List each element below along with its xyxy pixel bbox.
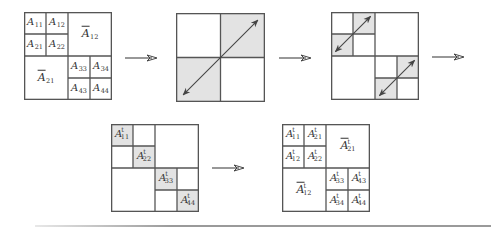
matrix-block-label: At11: [286, 129, 300, 141]
matrix-block-label: A34: [93, 61, 109, 73]
matrix-transpose-diagram: A11A12A21A22A12A21A33A34A43A44At11At22At…: [0, 0, 491, 228]
arrow-step-2-to-3-icon: [279, 53, 312, 63]
step-5-transposed-result: At11At21At12At22At21At12At33At43At34At44: [282, 124, 370, 212]
matrix-block-label: A21: [27, 39, 43, 51]
matrix-block-label: At11: [115, 129, 129, 141]
matrix-block-label: A33: [71, 61, 87, 73]
arrow-step-4-to-5-icon: [212, 163, 245, 173]
arrow-step-1-to-2-icon: [125, 53, 158, 63]
matrix-block-label: A22: [49, 39, 65, 51]
bottom-rule-divider: [35, 225, 491, 227]
arrow-step-3-to-4-icon: [432, 52, 465, 62]
matrix-block-label: A21: [38, 72, 55, 85]
step-3-swap-subblocks: [331, 12, 419, 100]
matrix-block-label: At43: [352, 173, 366, 185]
matrix-block-label: A12: [82, 28, 99, 41]
matrix-block-label: A12: [49, 17, 65, 29]
matrix-block-label: At22: [137, 151, 151, 163]
matrix-block-label: At22: [308, 151, 322, 163]
matrix-block-label: At12: [286, 151, 300, 163]
matrix-block-label: At44: [181, 195, 195, 207]
matrix-block-label: At21: [341, 140, 356, 153]
matrix-block-label: At21: [308, 129, 322, 141]
matrix-block-label: At12: [297, 184, 312, 197]
matrix-block-label: At34: [330, 195, 344, 207]
block-grid: [331, 12, 419, 100]
matrix-block-label: At33: [330, 173, 344, 185]
matrix-block-label: A44: [93, 83, 109, 95]
matrix-block-label: At44: [352, 195, 366, 207]
step-1-original-blocks: A11A12A21A22A12A21A33A34A43A44: [24, 12, 112, 100]
matrix-block-label: At33: [159, 173, 173, 185]
matrix-block-label: A43: [71, 83, 87, 95]
matrix-block-label: A11: [27, 17, 43, 29]
step-2-swap-offdiagonal-blocks: [176, 13, 265, 102]
block-grid: [176, 13, 265, 102]
step-4-transpose-diagonal-blocks: At11At22At33At44: [111, 124, 199, 212]
